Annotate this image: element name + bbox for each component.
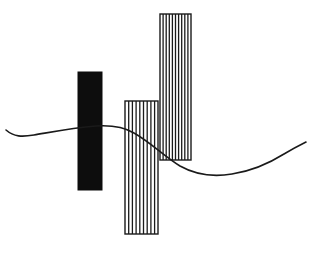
bar-striped-left: [125, 101, 158, 234]
bar-striped-tall-stripes: [163, 14, 188, 160]
artwork-canvas: [0, 0, 318, 259]
bar-solid-black-body: [78, 72, 102, 190]
bar-striped-tall: [160, 14, 191, 160]
bar-striped-left-body: [125, 101, 158, 234]
bar-solid-black: [78, 72, 102, 190]
artwork-svg: [0, 0, 318, 259]
canvas-background: [0, 0, 318, 259]
